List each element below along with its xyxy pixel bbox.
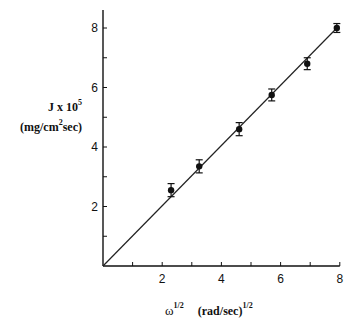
axes: [103, 10, 340, 266]
point-marker: [304, 61, 310, 67]
y-tick-label: 4: [91, 140, 98, 154]
x-tick-label: 8: [336, 272, 343, 286]
ticks: 24682468: [91, 21, 343, 286]
data-point: [268, 89, 275, 101]
y-tick-label: 2: [91, 200, 98, 214]
point-marker: [168, 187, 174, 193]
point-marker: [334, 25, 340, 31]
y-tick-label: 6: [91, 81, 98, 95]
x-tick-label: 2: [159, 272, 166, 286]
x-tick-label: 4: [218, 272, 225, 286]
data-points: [168, 24, 341, 197]
point-marker: [196, 163, 202, 169]
fit-line: [103, 28, 337, 266]
y-axis-title-line2: (mg/cm2sec): [20, 118, 82, 134]
y-axis-title-line1: J x 105: [48, 98, 82, 114]
y-tick-label: 8: [91, 21, 98, 35]
point-marker: [236, 126, 242, 132]
point-marker: [269, 92, 275, 98]
data-point: [304, 58, 311, 70]
x-tick-label: 6: [277, 272, 284, 286]
regression-line: [103, 28, 337, 266]
chart: 24682468 J x 105 (mg/cm2sec) ω1/2(rad/se…: [0, 0, 355, 335]
x-axis-title: ω1/2(rad/sec)1/2: [165, 301, 253, 318]
